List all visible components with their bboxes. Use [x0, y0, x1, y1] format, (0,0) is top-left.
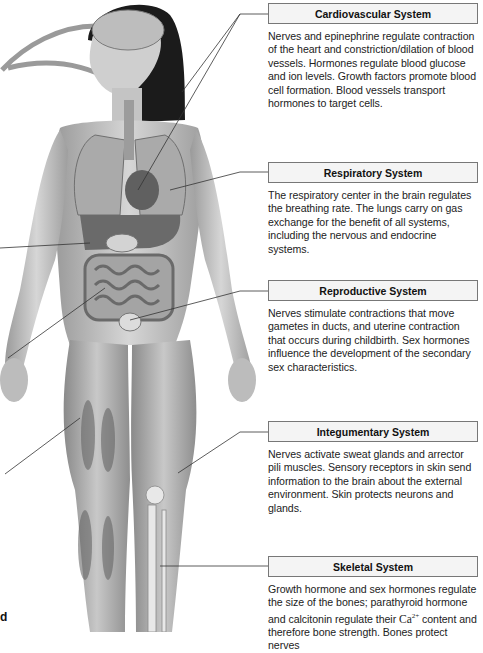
panel-integumentary: Integumentary System Nerves activate swe… [268, 421, 478, 515]
heart [125, 170, 159, 210]
chem-charge: 2+ [412, 612, 419, 620]
panel-title: Respiratory System [268, 162, 478, 183]
panel-description: Nerves activate sweat glands and arrecto… [268, 448, 478, 515]
panel-description: Nerves and epinephrine regulate contract… [268, 30, 478, 110]
panel-title: Integumentary System [268, 421, 478, 442]
right-arm [190, 130, 252, 372]
right-hand [228, 358, 256, 402]
chem-symbol: Ca [399, 613, 412, 625]
panel-title: Cardiovascular System [268, 3, 478, 24]
panel-respiratory: Respiratory System The respiratory cente… [268, 162, 478, 256]
stomach [106, 234, 138, 252]
brain [92, 10, 164, 50]
panel-reproductive: Reproductive System Nerves stimulate con… [268, 280, 478, 374]
panel-cardiovascular: Cardiovascular System Nerves and epineph… [268, 3, 478, 110]
uterus [119, 313, 141, 331]
calcium-ion: Ca2+ [399, 613, 419, 625]
panel-title: Skeletal System [268, 556, 478, 577]
panel-description: Growth hormone and sex hormones regulate… [268, 583, 478, 653]
trachea [124, 100, 134, 160]
panel-description: Nerves stimulate contractions that move … [268, 307, 478, 374]
left-leg [64, 340, 130, 632]
intestines [85, 255, 173, 320]
left-hand [0, 358, 28, 402]
cut-off-label: d [0, 610, 7, 624]
panel-title: Reproductive System [268, 280, 478, 301]
panel-skeletal: Skeletal System Growth hormone and sex h… [268, 556, 478, 653]
panel-description: The respiratory center in the brain regu… [268, 189, 478, 256]
